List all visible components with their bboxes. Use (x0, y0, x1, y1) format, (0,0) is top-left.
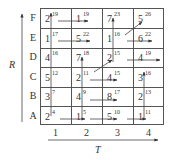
arrows-overlay (0, 0, 169, 160)
path-arrow (125, 22, 142, 35)
path-arrow (94, 60, 112, 72)
